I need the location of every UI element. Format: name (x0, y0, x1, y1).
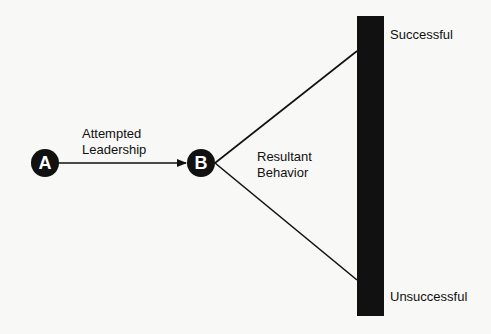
branch-label-line2: Behavior (257, 165, 312, 181)
success-scale-bar (357, 16, 384, 316)
branch-label: Resultant Behavior (257, 149, 312, 181)
node-a-label: A (31, 149, 59, 177)
successful-branch-line (215, 51, 357, 163)
node-b-label: B (187, 149, 215, 177)
scale-bottom-label: Unsuccessful (390, 289, 467, 305)
edge-label-line1: Attempted (82, 126, 146, 142)
scale-top-label: Successful (390, 27, 453, 43)
branch-label-line1: Resultant (257, 149, 312, 165)
edge-label-line2: Leadership (82, 142, 146, 158)
edge-label: Attempted Leadership (82, 126, 146, 158)
diagram-canvas (0, 0, 491, 334)
